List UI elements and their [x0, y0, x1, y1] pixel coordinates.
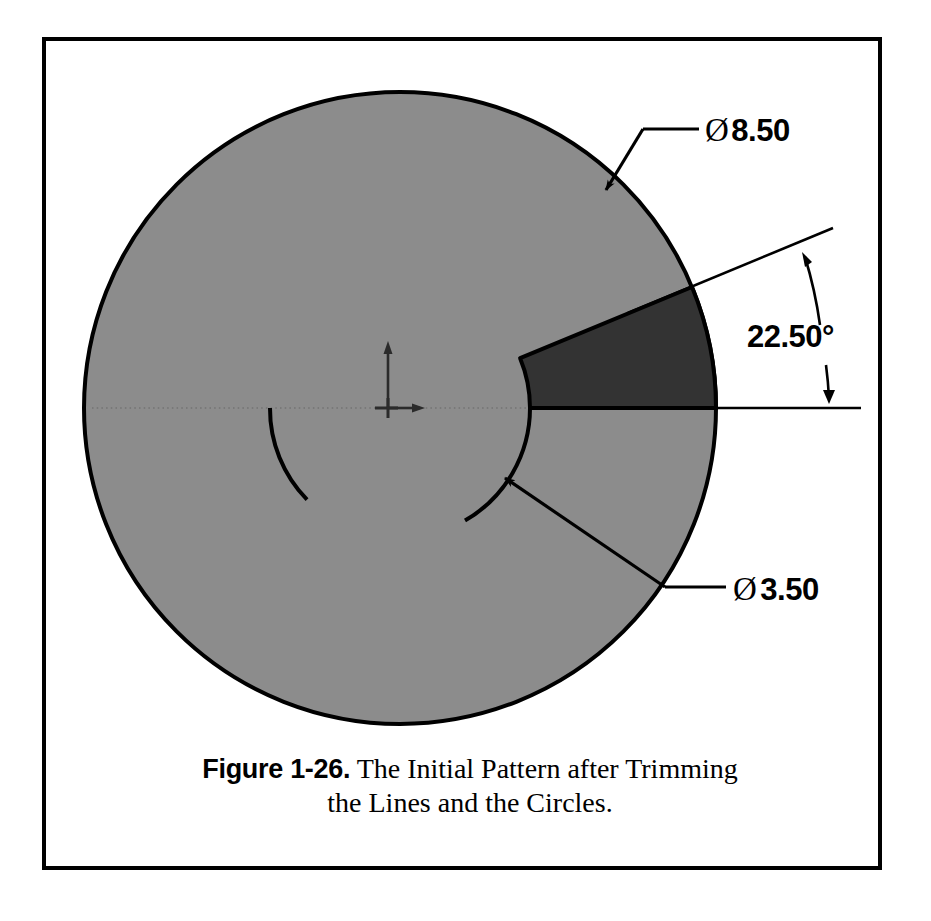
outer-diameter-value: 8.50	[731, 113, 789, 148]
figure-caption-line2: the Lines and the Circles.	[327, 787, 612, 818]
figure-caption: Figure 1-26. The Initial Pattern after T…	[90, 752, 850, 820]
diameter-symbol-outer: Ø	[705, 112, 728, 148]
inner-diameter-value: 3.50	[760, 572, 818, 607]
outer-diameter-label: Ø8.50	[705, 112, 790, 148]
figure-number-label: Figure 1-26.	[202, 754, 350, 784]
figure-caption-line1: The Initial Pattern after Trimming	[357, 753, 738, 784]
angle-dimension-arc-upper	[805, 257, 820, 325]
inner-diameter-label: Ø3.50	[733, 571, 819, 607]
diameter-symbol-inner: Ø	[733, 571, 756, 607]
angle-dimension-label: 22.50°	[747, 319, 834, 354]
figure-page: Ø8.50 Ø3.50 22.50° Figure 1-26. The Init…	[0, 0, 931, 921]
